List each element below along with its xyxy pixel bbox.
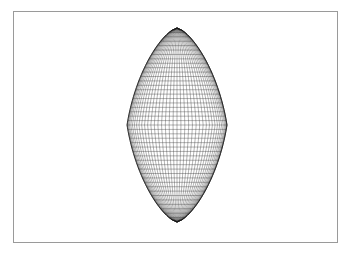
wireframe-plot bbox=[0, 0, 353, 258]
figure-canvas bbox=[0, 0, 353, 258]
